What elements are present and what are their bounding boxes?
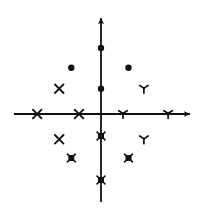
scatter-plot-svg (0, 0, 205, 215)
data-point-marker (68, 65, 74, 71)
data-point-marker (98, 45, 104, 51)
data-point-marker (125, 65, 131, 71)
coordinate-plot-figure (0, 0, 205, 215)
data-point-marker (98, 86, 104, 92)
